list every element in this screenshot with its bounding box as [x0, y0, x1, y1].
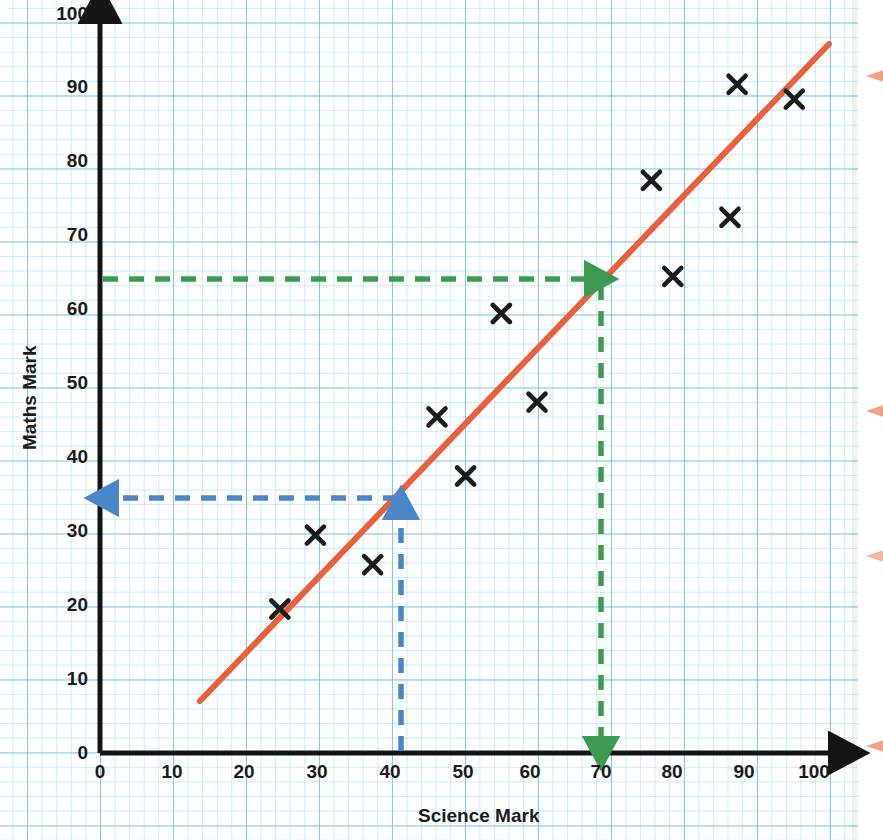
x-tick-label: 90 — [733, 761, 754, 783]
y-tick-label: 90 — [48, 76, 88, 98]
x-tick-label: 30 — [306, 761, 327, 783]
green-annotation-group — [103, 279, 601, 744]
x-tick-label: 40 — [379, 761, 400, 783]
y-tick-label: 100 — [33, 3, 88, 25]
data-point-marker — [364, 556, 381, 573]
data-point-marker — [643, 172, 660, 189]
data-point-marker — [457, 468, 474, 485]
x-tick-label: 50 — [452, 761, 473, 783]
x-tick-label: 80 — [661, 761, 682, 783]
y-tick-label: 60 — [48, 298, 88, 320]
line-of-best-fit — [200, 44, 829, 701]
data-point-marker — [664, 268, 681, 285]
data-point-marker — [786, 91, 803, 108]
x-tick-label: 20 — [233, 761, 254, 783]
y-tick-label: 20 — [48, 594, 88, 616]
x-tick-label: 10 — [161, 761, 182, 783]
data-point-marker — [529, 394, 546, 411]
y-tick-label: 40 — [48, 446, 88, 468]
y-tick-label: 10 — [48, 668, 88, 690]
data-point-marker — [429, 408, 446, 425]
data-point-marker — [722, 209, 739, 226]
x-tick-label: 60 — [519, 761, 540, 783]
plot-area: 0 10 20 30 40 50 60 70 80 90 100 0 10 20… — [0, 0, 883, 840]
x-tick-label: 0 — [95, 761, 106, 783]
y-tick-label: 70 — [48, 224, 88, 246]
scatter-graph-page: 0 10 20 30 40 50 60 70 80 90 100 0 10 20… — [0, 0, 883, 840]
y-tick-label: 30 — [48, 520, 88, 542]
y-tick-label: 0 — [58, 742, 88, 764]
x-axis-title: Science Mark — [418, 805, 539, 827]
data-point-marker — [729, 76, 746, 93]
x-tick-label: 100 — [798, 761, 830, 783]
axis-lines — [100, 14, 838, 753]
y-tick-label: 80 — [48, 150, 88, 172]
data-point-marker — [307, 527, 324, 544]
y-axis-title: Maths Mark — [19, 345, 41, 450]
data-point-marker — [493, 305, 510, 322]
y-tick-label: 50 — [48, 372, 88, 394]
plot-svg — [0, 0, 883, 840]
x-tick-label: 70 — [590, 761, 611, 783]
